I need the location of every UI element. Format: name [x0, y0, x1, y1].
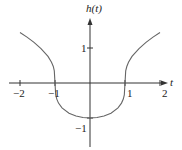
x-axis-arrow-icon [161, 81, 168, 86]
x-tick-label: 1 [127, 87, 133, 99]
y-tick-label: 1 [81, 42, 87, 54]
curve-left-branch [20, 33, 55, 84]
function-graph: −2−1121−1 h(t) t [0, 0, 182, 150]
x-tick-label: 2 [162, 87, 168, 99]
curve-right-branch [125, 33, 160, 84]
y-axis-arrow-icon [88, 18, 93, 25]
x-tick-label: −1 [48, 87, 60, 99]
x-axis-label: t [170, 76, 174, 88]
x-tick-label: −2 [13, 87, 25, 99]
y-tick-label: −1 [75, 122, 87, 134]
axes [9, 18, 168, 147]
y-axis-label: h(t) [86, 2, 102, 15]
